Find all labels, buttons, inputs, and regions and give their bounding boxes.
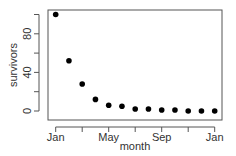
data-points bbox=[53, 12, 218, 114]
data-point bbox=[159, 107, 165, 113]
x-tick-label: May bbox=[98, 131, 119, 143]
y-axis: 04080 bbox=[21, 15, 39, 115]
x-tick-label: Sep bbox=[152, 131, 172, 143]
data-point bbox=[146, 106, 152, 112]
data-point bbox=[172, 107, 178, 113]
data-point bbox=[119, 103, 125, 109]
data-point bbox=[132, 106, 138, 112]
data-point bbox=[199, 108, 205, 114]
scatter-chart: 04080 JanMaySepJan month survivors bbox=[0, 0, 236, 156]
x-tick-label: Jan bbox=[206, 131, 224, 143]
data-point bbox=[185, 108, 191, 114]
data-point bbox=[66, 58, 72, 64]
data-point bbox=[106, 102, 112, 108]
data-point bbox=[53, 12, 59, 18]
y-tick-label: 0 bbox=[21, 108, 33, 114]
y-tick-label: 40 bbox=[21, 66, 33, 78]
x-tick-label: Jan bbox=[47, 131, 65, 143]
data-point bbox=[79, 81, 85, 87]
data-point bbox=[212, 108, 218, 114]
plot-box bbox=[48, 10, 222, 120]
y-tick-label: 80 bbox=[21, 28, 33, 40]
data-point bbox=[93, 97, 99, 103]
y-axis-title: survivors bbox=[7, 43, 19, 88]
x-axis-title: month bbox=[120, 140, 151, 152]
